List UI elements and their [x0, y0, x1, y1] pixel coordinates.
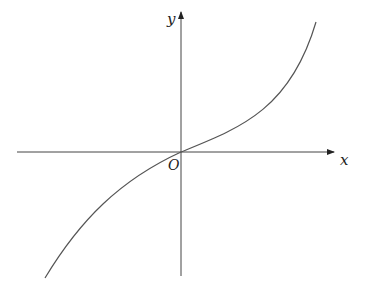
origin-label: O — [168, 157, 180, 173]
x-axis-label: x — [340, 151, 349, 169]
graph-canvas: x y O — [0, 0, 366, 297]
y-axis-label: y — [166, 10, 176, 28]
